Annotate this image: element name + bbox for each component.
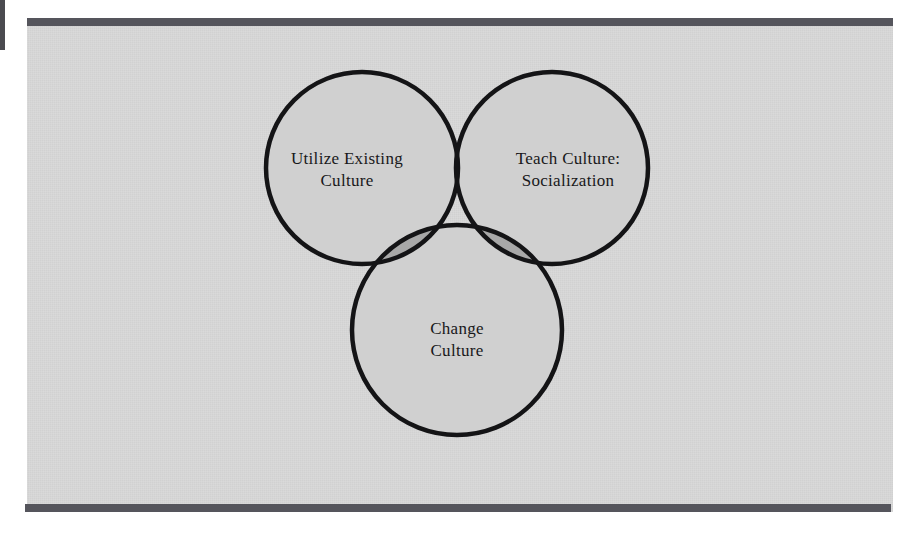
page-edge-artifact: [0, 0, 5, 50]
label-change-culture-line2: Culture: [430, 341, 483, 360]
label-teach-culture-socialization-line1: Teach Culture:: [516, 149, 621, 168]
label-utilize-existing-culture-line1: Utilize Existing: [291, 149, 403, 168]
label-change-culture-line1: Change: [430, 319, 484, 338]
label-teach-culture-socialization-line2: Socialization: [522, 171, 615, 190]
figure-root: Utilize Existing Culture Teach Culture: …: [0, 0, 914, 536]
venn-diagram: Utilize Existing Culture Teach Culture: …: [27, 18, 893, 512]
label-utilize-existing-culture-line2: Culture: [320, 171, 373, 190]
